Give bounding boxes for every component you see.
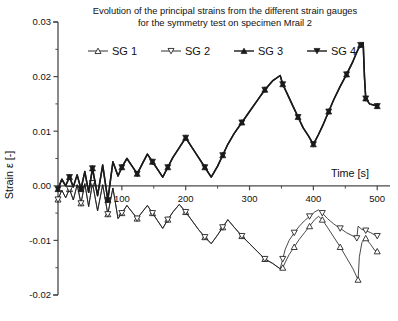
legend: SG 1SG 2SG 3SG 4 [88, 45, 356, 57]
x-tick-label: 500 [369, 193, 385, 204]
series-marker [363, 228, 369, 233]
x-tick-label: 100 [114, 193, 130, 204]
series-line [58, 183, 377, 269]
series-marker [307, 223, 313, 228]
y-tick-label: 0.02 [33, 71, 52, 82]
x-tick-label: 200 [178, 193, 194, 204]
series-sg-2 [55, 181, 380, 269]
chart-title-line2: for the symmetry test on specimen Mrail … [138, 17, 312, 28]
series-marker [291, 244, 297, 249]
axes-group: -0.02-0.010.000.010.020.0310020030040050… [29, 16, 390, 300]
legend-item-sg-3[interactable]: SG 3 [234, 45, 283, 57]
title-group: Evolution of the principal strains from … [93, 5, 358, 28]
legend-item-sg-2[interactable]: SG 2 [161, 45, 210, 57]
y-tick-label: -0.02 [29, 289, 51, 300]
series-marker [354, 236, 360, 241]
x-tick-label: 400 [305, 193, 321, 204]
x-tick-label: 300 [242, 193, 258, 204]
series-line [58, 43, 377, 200]
series-line [58, 43, 377, 200]
x-axis-label: Time [s] [331, 167, 369, 179]
y-tick-label: 0.01 [33, 126, 52, 137]
series-marker [374, 233, 380, 238]
series-marker [280, 256, 286, 261]
series-sg-1 [55, 180, 380, 282]
legend-label: SG 2 [185, 45, 210, 57]
series-marker [291, 230, 297, 235]
legend-item-sg-4[interactable]: SG 4 [307, 45, 356, 57]
legend-item-sg-1[interactable]: SG 1 [88, 45, 137, 57]
chart-title-line1: Evolution of the principal strains from … [93, 5, 358, 16]
y-tick-label: 0.03 [33, 16, 52, 27]
chart-canvas: -0.02-0.010.000.010.020.0310020030040050… [0, 0, 398, 321]
series-marker [355, 277, 361, 282]
legend-label: SG 1 [112, 45, 137, 57]
series-marker [337, 226, 343, 231]
legend-label: SG 4 [331, 45, 356, 57]
strain-chart-figure: -0.02-0.010.000.010.020.0310020030040050… [0, 0, 398, 321]
y-tick-label: -0.01 [29, 235, 51, 246]
legend-label: SG 3 [258, 45, 283, 57]
y-axis-label: Strain ε [-] [3, 151, 15, 200]
series-marker [337, 244, 343, 249]
series-marker [363, 235, 369, 240]
y-tick-label: 0.00 [33, 180, 52, 191]
series-marker [374, 248, 380, 253]
